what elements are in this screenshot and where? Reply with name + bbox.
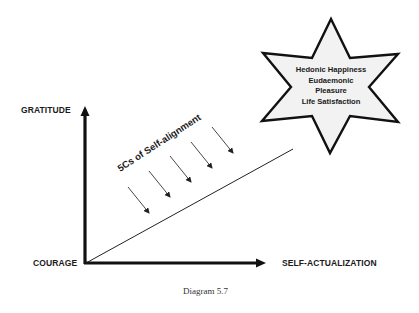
- arrow-icon: [170, 156, 191, 182]
- arrow-icon: [212, 127, 233, 153]
- y-axis-arrowhead-icon: [81, 106, 90, 116]
- x-axis-label: SELF-ACTUALIZATION: [282, 258, 377, 268]
- star-text-block: Hedonic Happiness Eudaemonic Pleasure Li…: [290, 65, 372, 107]
- arrow-icon: [149, 171, 170, 197]
- x-axis: [84, 259, 266, 268]
- alignment-arrows: [128, 127, 233, 213]
- x-axis-arrowhead-icon: [256, 259, 266, 268]
- star-line-life-satisfaction: Life Satisfaction: [290, 97, 372, 108]
- y-axis: [81, 106, 90, 264]
- y-axis-label: GRATITUDE: [21, 105, 71, 115]
- star-line-pleasure: Pleasure: [290, 86, 372, 97]
- origin-label: COURAGE: [33, 258, 77, 268]
- arrow-icon: [191, 142, 212, 168]
- star-line-eudaemonic: Eudaemonic: [290, 76, 372, 87]
- diagram-caption: Diagram 5.7: [183, 286, 228, 296]
- star-line-hedonic-happiness: Hedonic Happiness: [290, 65, 372, 76]
- arrow-icon: [128, 187, 149, 213]
